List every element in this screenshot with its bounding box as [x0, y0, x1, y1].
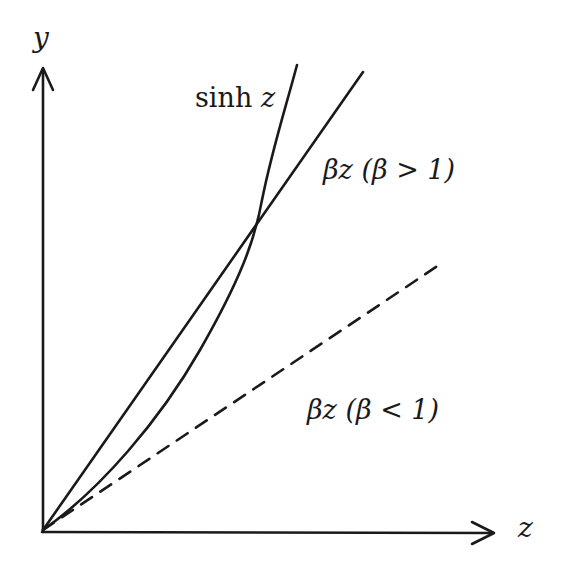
z-axis: [42, 532, 493, 533]
diagram-canvas: [0, 0, 565, 566]
beta-lt-lhs: βz: [307, 394, 337, 425]
beta-gt-1-label: βz (β > 1): [323, 156, 455, 183]
sinh-vs-linear-diagram: y z sinh z βz (β > 1) βz (β < 1): [0, 0, 565, 566]
sinh-var-text: z: [261, 82, 275, 113]
beta-gt-cond: (β > 1): [361, 154, 455, 185]
sinh-curve-label: sinh z: [195, 84, 275, 111]
beta-lt-1-label: βz (β < 1): [307, 396, 439, 423]
sinh-fn-text: sinh: [195, 82, 252, 113]
curve-sinh: [43, 65, 297, 530]
z-axis-label: z: [518, 514, 533, 542]
y-axis-label: y: [33, 24, 49, 52]
beta-lt-cond: (β < 1): [345, 394, 439, 425]
beta-gt-lhs: βz: [323, 154, 353, 185]
curve-beta-gt-1: [43, 72, 363, 530]
